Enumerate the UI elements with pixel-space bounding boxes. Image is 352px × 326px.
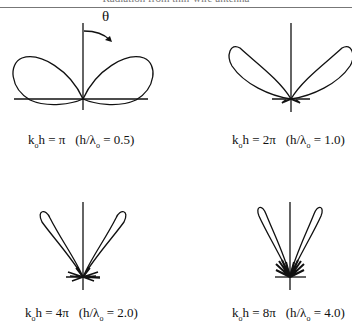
pattern-panel-4 <box>258 202 322 290</box>
panel-1-caption: koh = π (h/λo = 0.5) <box>28 132 134 150</box>
caption-ratio-value: = 0.5) <box>100 132 134 147</box>
caption-ratio: (h/λ <box>79 305 100 320</box>
lobe-right <box>291 47 352 99</box>
minor-lobes <box>68 268 100 281</box>
theta-arrow <box>84 31 110 40</box>
theta-label: θ <box>102 8 109 25</box>
caption-ratio-value: = 4.0) <box>310 305 344 320</box>
lobe-left <box>13 57 83 105</box>
caption-k0h: h = 2π <box>243 132 276 147</box>
lobe-left <box>40 212 83 277</box>
panel-4-caption: koh = 8π (h/λo = 4.0) <box>232 305 345 323</box>
caption-k0h: h = 8π <box>243 305 276 320</box>
lobe-left <box>229 47 291 99</box>
pattern-panel-3 <box>40 202 126 290</box>
panel-3-caption: koh = 4π (h/λo = 2.0) <box>25 305 138 323</box>
caption-k0h: h = π <box>39 132 66 147</box>
lobe-right <box>83 212 126 277</box>
caption-ratio-value: = 2.0) <box>103 305 137 320</box>
caption-k0h: h = 4π <box>36 305 69 320</box>
radiation-patterns <box>0 0 352 326</box>
caption-ratio: (h/λ <box>286 132 307 147</box>
pattern-panel-2 <box>229 23 352 112</box>
lobe-right <box>83 57 153 105</box>
pattern-panel-1 <box>13 23 153 110</box>
caption-ratio: (h/λ <box>75 132 96 147</box>
panel-2-caption: koh = 2π (h/λo = 1.0) <box>232 132 345 150</box>
caption-ratio: (h/λ <box>286 305 307 320</box>
caption-ratio-value: = 1.0) <box>310 132 344 147</box>
